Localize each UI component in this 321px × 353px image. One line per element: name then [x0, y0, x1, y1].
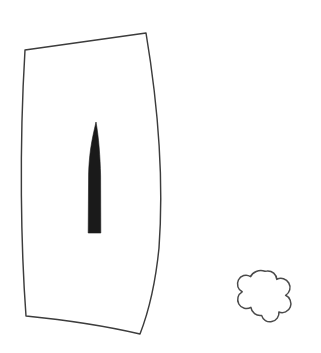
line-drawing-svg: Line drawing illustration Curved quadril…	[0, 0, 321, 353]
cloud-rosette	[237, 271, 290, 322]
rosette-group	[237, 271, 290, 322]
illustration-canvas: Line drawing illustration Curved quadril…	[0, 0, 321, 353]
